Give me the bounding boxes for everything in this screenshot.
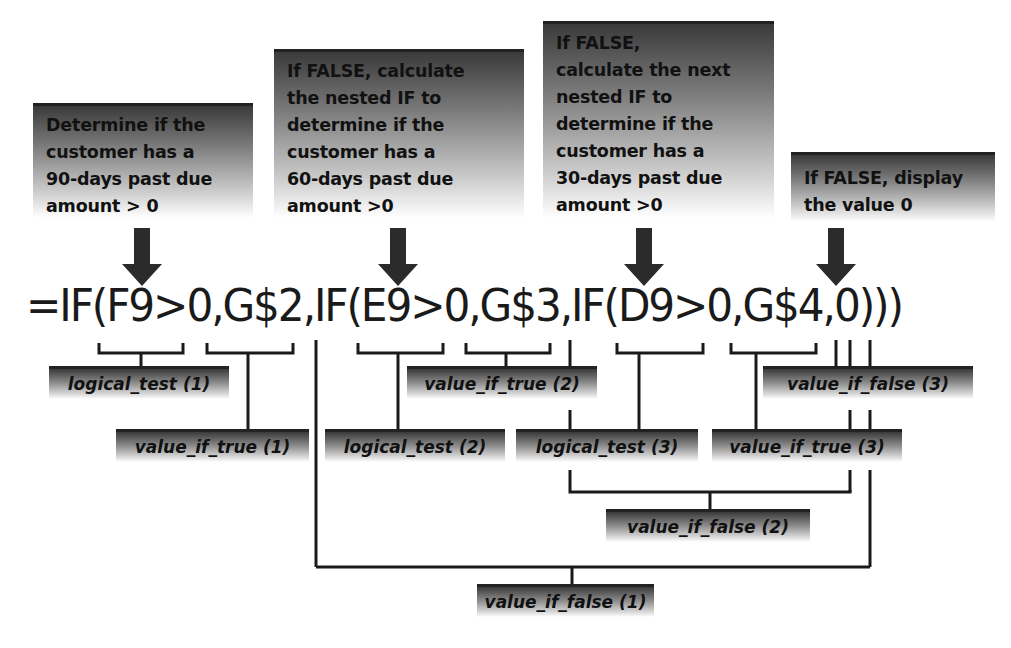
label-value-if-false-3: value_if_false (3): [763, 366, 973, 399]
label-value-if-false-1: value_if_false (1): [477, 584, 654, 617]
label-value-if-false-2: value_if_false (2): [606, 509, 810, 542]
label-value-if-true-2: value_if_true (2): [407, 366, 597, 399]
label-logical-test-1: logical_test (1): [49, 366, 229, 399]
label-value-if-true-3: value_if_true (3): [712, 429, 902, 462]
label-logical-test-3: logical_test (3): [516, 429, 698, 462]
label-logical-test-2: logical_test (2): [325, 429, 505, 462]
label-value-if-true-1: value_if_true (1): [116, 429, 309, 462]
bracket-connectors: [0, 0, 1011, 648]
